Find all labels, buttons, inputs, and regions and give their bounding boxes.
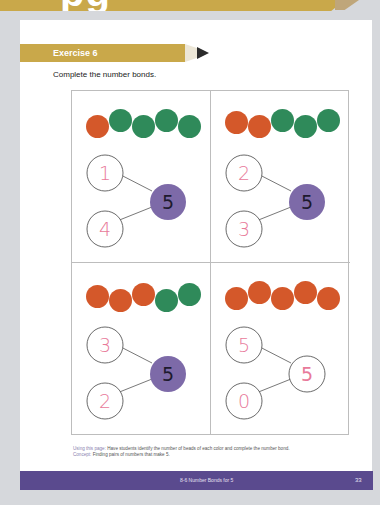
number-bond-diagram: 235 — [211, 91, 350, 263]
footnote-using-text: Have students identify the number of bea… — [106, 446, 290, 451]
svg-text:2: 2 — [238, 162, 250, 184]
whole-circle: 5 — [150, 356, 186, 392]
problem-cell: 505 — [211, 263, 350, 435]
svg-text:5: 5 — [301, 191, 313, 213]
number-bond-diagram: 145 — [72, 91, 211, 263]
chapter-banner: pg — [0, 0, 345, 11]
svg-text:4: 4 — [99, 218, 111, 240]
part-bottom-circle: 2 — [87, 383, 123, 419]
footnote-using-label: Using this page: — [73, 446, 106, 451]
problem-grid: 145 235 325 505 — [71, 90, 349, 435]
problem-cell: 145 — [72, 91, 211, 263]
part-top-circle: 5 — [226, 327, 262, 363]
chapter-title: pg — [60, 0, 111, 11]
svg-text:5: 5 — [301, 363, 313, 385]
svg-text:5: 5 — [238, 334, 250, 356]
part-bottom-circle: 0 — [226, 383, 262, 419]
svg-text:3: 3 — [238, 218, 250, 240]
number-bond-diagram: 325 — [72, 263, 211, 435]
teacher-footnote: Using this page: Have students identify … — [73, 446, 290, 458]
part-top-circle: 2 — [226, 155, 262, 191]
instruction-text: Complete the number bonds. — [53, 70, 156, 79]
number-bond-diagram: 505 — [211, 263, 350, 435]
part-top-circle: 1 — [87, 155, 123, 191]
page-number: 33 — [355, 471, 362, 490]
whole-circle: 5 — [289, 356, 325, 392]
problem-cell: 325 — [72, 263, 211, 435]
part-bottom-circle: 3 — [226, 211, 262, 247]
lesson-title: 8-6 Number Bonds for 5 — [180, 471, 233, 490]
svg-text:1: 1 — [99, 162, 111, 184]
svg-text:3: 3 — [99, 334, 111, 356]
part-top-circle: 3 — [87, 327, 123, 363]
svg-text:5: 5 — [162, 363, 174, 385]
svg-text:2: 2 — [99, 390, 111, 412]
footnote-concept-text: Finding pairs of numbers that make 5. — [91, 452, 169, 457]
footnote-concept: Concept: Finding pairs of numbers that m… — [73, 452, 290, 458]
exercise-banner — [20, 44, 185, 62]
whole-circle: 5 — [150, 184, 186, 220]
part-bottom-circle: 4 — [87, 211, 123, 247]
footnote-concept-label: Concept: — [73, 452, 91, 457]
exercise-title: Exercise 6 — [53, 44, 98, 62]
svg-text:0: 0 — [238, 390, 250, 412]
whole-circle: 5 — [289, 184, 325, 220]
chapter-banner-tip — [335, 0, 359, 10]
svg-text:5: 5 — [162, 191, 174, 213]
problem-cell: 235 — [211, 91, 350, 263]
